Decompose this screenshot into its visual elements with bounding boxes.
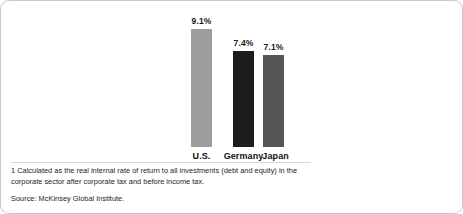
bar-rect xyxy=(191,29,212,147)
bar-category-label: U.S. xyxy=(193,151,211,161)
plot-area: 9.1% U.S. 7.4% Germany 7.1% Japan xyxy=(1,1,463,159)
bar-rect xyxy=(233,51,254,147)
bar-value-label: 9.1% xyxy=(192,16,212,26)
notes-block: 1 Calculated as the real internal rate o… xyxy=(11,162,311,205)
bar-category-label: Japan xyxy=(262,151,289,161)
bar-value-label: 7.1% xyxy=(264,42,284,52)
bar-rect xyxy=(263,55,284,147)
chart-figure: 9.1% U.S. 7.4% Germany 7.1% Japan 1 Calc… xyxy=(0,0,463,214)
bar-item-us: 9.1% U.S. xyxy=(191,29,212,147)
bar-item-germany: 7.4% Germany xyxy=(233,51,254,147)
footnote-text: 1 Calculated as the real internal rate o… xyxy=(11,166,303,187)
bar-group: 9.1% U.S. 7.4% Germany 7.1% Japan xyxy=(1,1,463,159)
bar-item-japan: 7.1% Japan xyxy=(263,55,284,147)
bar-value-label: 7.4% xyxy=(234,38,254,48)
notes-divider xyxy=(11,162,311,163)
bar-category-label: Germany xyxy=(224,151,264,161)
source-text: Source: McKinsey Global Institute. xyxy=(11,194,311,205)
